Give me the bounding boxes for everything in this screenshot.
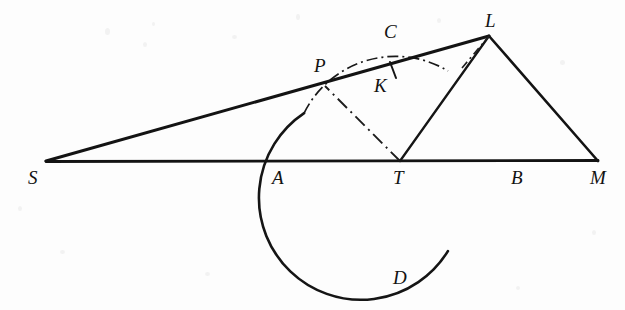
point-label-D: D bbox=[393, 268, 407, 287]
point-label-K: K bbox=[374, 76, 387, 95]
scan-speck bbox=[205, 272, 210, 276]
segment-TL bbox=[400, 36, 489, 161]
scan-speck bbox=[232, 35, 237, 39]
circle-solid-arc bbox=[259, 113, 448, 300]
point-label-T: T bbox=[393, 168, 404, 187]
point-label-L: L bbox=[485, 11, 496, 30]
segment-LM bbox=[489, 36, 598, 161]
segment-TP bbox=[325, 86, 400, 161]
point-label-A: A bbox=[272, 168, 284, 187]
scan-speck bbox=[152, 22, 155, 26]
segment-SL bbox=[46, 36, 489, 161]
point-label-C: C bbox=[384, 22, 397, 41]
point-label-M: M bbox=[590, 168, 606, 187]
scan-speck bbox=[437, 18, 441, 23]
point-label-S: S bbox=[28, 168, 38, 187]
figure-canvas bbox=[0, 0, 625, 310]
scan-speck bbox=[18, 206, 22, 211]
scan-speck bbox=[296, 14, 300, 20]
scan-speck bbox=[60, 250, 65, 254]
point-label-P: P bbox=[314, 56, 326, 75]
scan-speck bbox=[516, 286, 520, 290]
geometry-figure: S A T B M P K C L D bbox=[0, 0, 625, 310]
point-label-B: B bbox=[511, 168, 523, 187]
scan-speck bbox=[560, 60, 565, 65]
scan-speck bbox=[592, 230, 596, 235]
scan-speck bbox=[143, 42, 147, 47]
scan-speck bbox=[105, 28, 110, 35]
segment-SM bbox=[46, 161, 598, 162]
